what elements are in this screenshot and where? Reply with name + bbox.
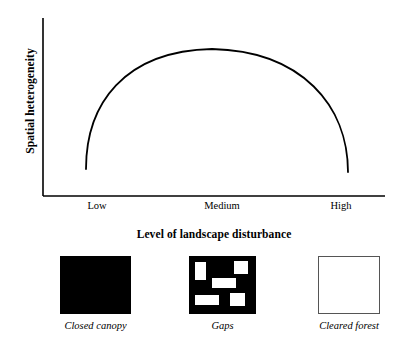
gap-rect	[195, 262, 206, 280]
heterogeneity-curve	[86, 49, 348, 172]
x-tick-label-high: High	[316, 200, 366, 211]
figure-root: Spatial heterogeneity Low Medium High Le…	[0, 0, 410, 351]
x-axis-title: Level of landscape disturbance	[43, 228, 385, 240]
y-axis-title: Spatial heterogeneity	[24, 11, 36, 191]
gap-rect	[195, 295, 219, 305]
gap-rect	[212, 278, 236, 288]
plot-area	[0, 0, 410, 210]
panel-gaps-caption: Gaps	[211, 320, 233, 331]
gap-rect	[230, 293, 245, 306]
panel-row: Closed canopy Gaps Cleared forest	[0, 256, 410, 351]
panel-closed-canopy: Closed canopy	[60, 256, 131, 314]
panel-cleared-forest-box	[318, 256, 380, 314]
panel-gaps-box	[189, 256, 256, 314]
gap-rect	[234, 261, 248, 274]
panel-cleared-forest-caption: Cleared forest	[319, 320, 379, 331]
panel-gaps: Gaps	[189, 256, 256, 314]
x-tick-label-low: Low	[72, 200, 122, 211]
panel-closed-canopy-caption: Closed canopy	[64, 320, 126, 331]
x-tick-label-medium: Medium	[194, 200, 250, 211]
panel-closed-canopy-box	[60, 256, 131, 314]
panel-cleared-forest: Cleared forest	[318, 256, 380, 314]
